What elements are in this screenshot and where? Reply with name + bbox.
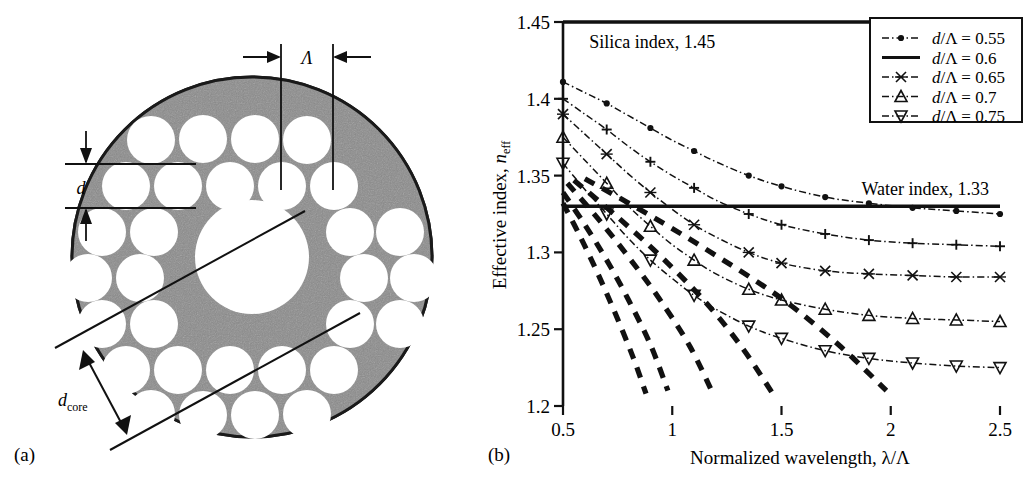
y-tick-label: 1.35 — [517, 166, 550, 187]
y-tick-labels: 1.21.251.31.351.41.45 — [517, 12, 551, 417]
legend-label: d/Λ = 0.55 — [932, 29, 1005, 48]
data-point-plus — [744, 209, 754, 219]
data-point-dot — [822, 194, 828, 200]
air-hole — [130, 300, 178, 348]
core-diameter-label: dcore — [58, 390, 88, 414]
air-hole — [258, 346, 306, 394]
pitch-label: Λ — [300, 48, 313, 68]
data-point-plus — [777, 220, 787, 230]
y-axis-title: Effective index, neff — [489, 141, 513, 289]
data-point-cross — [907, 270, 919, 280]
d-arrowhead-top — [80, 148, 92, 164]
x-tick-marks — [563, 406, 1000, 415]
air-hole — [283, 116, 331, 164]
fiber-cross-section-svg: Λ d dcore — [0, 0, 480, 485]
air-hole — [154, 162, 202, 210]
panel-b-tag: (b) — [488, 444, 510, 466]
data-point-plus — [558, 94, 568, 104]
air-hole — [326, 300, 374, 348]
data-point-dot — [778, 183, 784, 189]
x-tick-labels: 0.511.522.5 — [551, 419, 1012, 440]
silica-index-line-label: Silica index, 1.45 — [589, 32, 715, 52]
panel-a-fiber-diagram: Λ d dcore (a) — [0, 0, 480, 485]
air-hole — [206, 162, 254, 210]
air-hole — [64, 254, 112, 302]
air-hole — [390, 254, 438, 302]
cladding-mode-1 — [563, 203, 646, 393]
x-tick-label: 1.5 — [770, 419, 794, 440]
legend-label: d/Λ = 0.7 — [932, 88, 997, 107]
data-point-triangle-down — [994, 363, 1006, 374]
air-hole — [310, 162, 358, 210]
y-tick-label: 1.45 — [517, 12, 550, 33]
air-hole — [376, 208, 424, 256]
air-hole — [326, 208, 374, 256]
water-index-line-label: Water index, 1.33 — [862, 179, 990, 199]
air-hole — [231, 391, 279, 439]
air-hole — [231, 115, 279, 163]
dcore-arrowhead-upper — [79, 350, 95, 370]
data-point-cross — [863, 269, 875, 279]
data-point-cross — [644, 187, 656, 197]
pitch-arrowhead-right — [333, 51, 347, 63]
air-hole — [130, 208, 178, 256]
air-hole — [78, 300, 126, 348]
data-point-dot — [910, 205, 916, 211]
air-hole — [258, 162, 306, 210]
air-hole — [179, 115, 227, 163]
data-point-dot — [560, 79, 566, 85]
air-hole — [102, 162, 150, 210]
air-hole — [310, 346, 358, 394]
data-point-dot — [953, 208, 959, 214]
panel-b-chart: 1.21.251.31.351.41.45 0.511.522.5 Silica… — [480, 0, 1032, 485]
data-point-cross — [688, 220, 700, 230]
legend-label: d/Λ = 0.65 — [932, 68, 1005, 87]
air-hole — [127, 390, 175, 438]
air-hole — [283, 390, 331, 438]
air-hole — [116, 254, 164, 302]
air-hole — [340, 254, 388, 302]
air-hole — [102, 346, 150, 394]
hole-diameter-label: d — [77, 178, 87, 198]
legend-label: d/Λ = 0.6 — [932, 49, 996, 68]
data-point-cross — [601, 149, 613, 159]
y-tick-label: 1.4 — [526, 89, 550, 110]
air-hole — [206, 346, 254, 394]
cladding-mode-5 — [585, 179, 887, 391]
y-tick-label: 1.3 — [526, 242, 550, 263]
data-point-plus — [645, 157, 655, 167]
data-point-dot — [691, 148, 697, 154]
data-point-plus — [820, 229, 830, 239]
data-point-plus — [951, 240, 961, 250]
effective-index-plot: 1.21.251.31.351.41.45 0.511.522.5 Silica… — [480, 0, 1032, 485]
data-point-dot — [647, 125, 653, 131]
x-axis-title: Normalized wavelength, λ/Λ — [690, 447, 910, 468]
data-point-dot — [604, 100, 610, 106]
cladding-mode-3 — [567, 183, 711, 390]
data-point-plus — [995, 241, 1005, 251]
air-hole — [376, 300, 424, 348]
air-hole — [127, 116, 175, 164]
data-point-plus — [689, 183, 699, 193]
data-point-plus — [864, 235, 874, 245]
x-tick-label: 1 — [668, 419, 678, 440]
air-hole — [154, 346, 202, 394]
data-point-cross — [994, 272, 1006, 282]
x-tick-label: 2 — [886, 419, 896, 440]
pitch-arrowhead-left — [267, 51, 281, 63]
data-point-cross — [819, 266, 831, 276]
y-tick-label: 1.2 — [526, 396, 550, 417]
data-point-triangle-down — [776, 333, 788, 344]
data-point-cross — [776, 258, 788, 268]
data-point-cross — [950, 272, 962, 282]
data-point-dot — [997, 211, 1003, 217]
data-point-cross — [743, 247, 755, 257]
data-point-dot — [866, 200, 872, 206]
core-diameter-sub: core — [67, 400, 88, 414]
data-point-dot — [898, 35, 904, 41]
panel-a-tag: (a) — [14, 444, 35, 466]
series-legend[interactable]: d/Λ = 0.55d/Λ = 0.6d/Λ = 0.65d/Λ = 0.7d/… — [870, 18, 1022, 126]
legend-label: d/Λ = 0.75 — [932, 107, 1005, 126]
x-tick-label: 2.5 — [988, 419, 1012, 440]
y-tick-label: 1.25 — [517, 319, 550, 340]
